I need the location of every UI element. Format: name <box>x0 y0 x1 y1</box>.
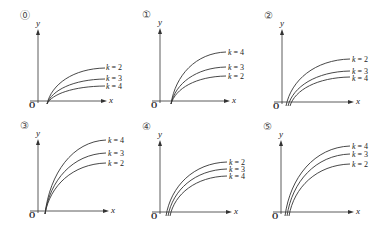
figure-stage: k = 2k = 3k = 4⓪yxOk = 4k = 3k = 2①yxOk … <box>0 0 388 240</box>
x-axis-label: x <box>111 206 115 215</box>
y-axis-label: y <box>36 19 40 28</box>
curve-label: k = 3 <box>108 150 124 158</box>
origin-label: O <box>151 213 157 221</box>
x-arrow-icon <box>226 210 232 214</box>
curve-k3 <box>288 71 350 106</box>
curve-label: k = 4 <box>229 173 245 181</box>
curve-label: k = 2 <box>108 160 124 168</box>
panel-2 <box>274 29 354 106</box>
panel-marker: ② <box>264 11 273 21</box>
curve-k3 <box>45 153 106 214</box>
x-arrow-icon <box>224 99 230 103</box>
curve-label: k = 4 <box>228 49 244 57</box>
origin-label: O <box>273 103 279 111</box>
panel-marker: ⓪ <box>20 11 30 21</box>
curve-label: k = 2 <box>352 161 368 169</box>
curve-k3 <box>287 154 350 216</box>
origin-label: O <box>29 102 35 110</box>
y-arrow-icon <box>279 140 283 146</box>
curve-k2 <box>289 164 350 216</box>
y-axis-label: y <box>158 18 162 27</box>
x-arrow-icon <box>103 209 109 213</box>
y-arrow-icon <box>36 139 40 145</box>
y-arrow-icon <box>280 29 284 35</box>
panel-5 <box>273 140 354 216</box>
graphs-svg <box>0 0 388 240</box>
x-axis-label: x <box>109 96 113 105</box>
curve-k4 <box>171 52 226 104</box>
curve-k4 <box>170 176 227 216</box>
origin-label: O <box>272 213 278 221</box>
x-axis-label: x <box>356 207 360 216</box>
y-arrow-icon <box>158 140 162 146</box>
curve-k3 <box>168 169 227 216</box>
curve-label: k = 3 <box>352 151 368 159</box>
panel-4 <box>152 140 232 216</box>
curve-label: k = 4 <box>352 75 368 83</box>
panel-marker: ③ <box>20 121 29 131</box>
curve-k2 <box>45 163 106 214</box>
x-axis-label: x <box>232 96 236 105</box>
y-axis-label: y <box>280 19 284 28</box>
curve-k3 <box>171 67 226 104</box>
y-axis-label: y <box>279 130 283 139</box>
y-arrow-icon <box>158 28 162 34</box>
curve-label: k = 3 <box>228 64 244 72</box>
y-axis-label: y <box>158 130 162 139</box>
panel-marker: ④ <box>142 122 151 132</box>
curve-label: k = 2 <box>228 73 244 81</box>
curve-label: k = 2 <box>106 64 122 72</box>
curve-k4 <box>45 140 106 214</box>
y-axis-label: y <box>36 129 40 138</box>
curve-label: k = 2 <box>352 56 368 64</box>
curve-label: k = 4 <box>106 83 122 91</box>
panel-3 <box>30 139 109 214</box>
x-arrow-icon <box>348 210 354 214</box>
curve-k4 <box>285 146 350 216</box>
y-arrow-icon <box>36 29 40 35</box>
origin-label: O <box>29 212 35 220</box>
x-axis-label: x <box>356 97 360 106</box>
panel-0 <box>30 29 107 104</box>
origin-label: O <box>151 102 157 110</box>
x-arrow-icon <box>348 100 354 104</box>
panel-1 <box>152 28 230 104</box>
x-arrow-icon <box>101 99 107 103</box>
panel-marker: ⑤ <box>263 122 272 132</box>
curve-label: k = 4 <box>108 137 124 145</box>
panel-marker: ① <box>142 10 151 20</box>
curve-k3 <box>47 79 105 104</box>
x-axis-label: x <box>234 207 238 216</box>
